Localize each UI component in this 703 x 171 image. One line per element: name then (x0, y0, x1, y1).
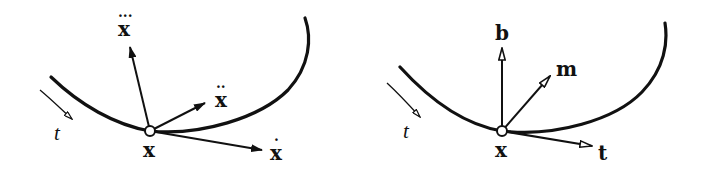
curve-right (400, 23, 666, 132)
param-label-left: t (54, 121, 61, 145)
param-direction-arrow-left (40, 90, 72, 119)
frenet-frame-figure: t x ··· x ·· x · x t b (0, 0, 703, 171)
left-panel: t x ··· x ·· x · x (40, 8, 309, 165)
binormal-label: b (495, 21, 509, 45)
third-derivative-dots: ··· (118, 8, 133, 24)
tangent-arrow (502, 131, 592, 146)
third-derivative-arrow (130, 47, 150, 131)
curve-point-right (497, 126, 507, 136)
first-derivative-arrow (150, 131, 262, 150)
second-derivative-arrow (150, 103, 205, 131)
right-panel: t b m t x (387, 21, 666, 165)
curve-point-left (145, 126, 155, 136)
param-label-right: t (403, 119, 410, 143)
main-normal-label: m (556, 57, 577, 81)
param-direction-arrow-right (387, 83, 420, 117)
point-label-left: x (143, 138, 156, 162)
first-derivative-dots: · (274, 132, 279, 148)
point-label-right: x (495, 138, 508, 162)
main-normal-arrow (502, 76, 550, 131)
second-derivative-dots: ·· (216, 79, 226, 95)
tangent-label: t (598, 141, 608, 165)
